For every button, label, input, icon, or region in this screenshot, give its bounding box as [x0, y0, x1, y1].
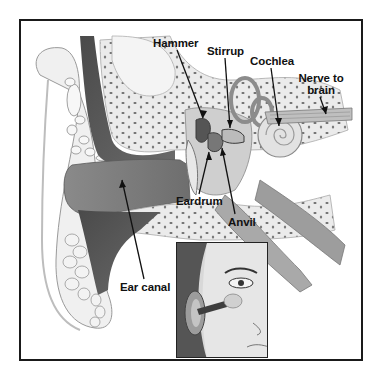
label-anvil: Anvil [228, 216, 256, 228]
label-nerve-line2: brain [296, 84, 346, 96]
label-eardrum: Eardrum [176, 195, 223, 207]
face-profile [177, 243, 268, 358]
label-ear-canal: Ear canal [120, 281, 170, 293]
label-cochlea: Cochlea [250, 55, 294, 67]
label-hammer: Hammer [153, 37, 198, 49]
inset-face-illustration [176, 242, 268, 358]
anvil-bone [208, 133, 223, 152]
label-nerve-line1: Nerve to [296, 72, 346, 84]
label-nerve-to-brain: Nerve to brain [296, 72, 346, 96]
label-stirrup: Stirrup [207, 45, 244, 57]
